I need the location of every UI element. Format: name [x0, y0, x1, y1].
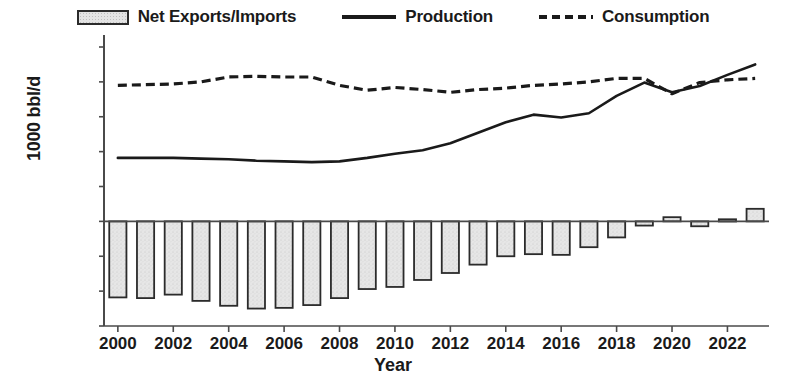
x-tick-label-2014: 2014	[476, 334, 536, 354]
solid-line-swatch-icon	[342, 15, 396, 19]
x-tick-label-2012: 2012	[420, 334, 480, 354]
bar-2001	[137, 221, 154, 298]
bar-2010	[386, 221, 403, 287]
bar-2004	[220, 221, 237, 305]
legend-item-net-exports-imports: Net Exports/Imports	[77, 7, 297, 27]
legend-item-production: Production	[342, 7, 493, 27]
bar-2014	[497, 221, 514, 256]
legend-label-net-exports-imports: Net Exports/Imports	[138, 7, 297, 27]
x-tick-label-2006: 2006	[254, 334, 314, 354]
y-axis-title: 1000 bbl/d	[24, 39, 45, 199]
bar-2023	[747, 209, 764, 222]
bar-2017	[580, 221, 597, 247]
x-axis-title: Year	[0, 355, 786, 376]
bar-series-net-exports-imports	[109, 209, 763, 309]
chart-svg	[104, 47, 769, 326]
legend-label-production: Production	[405, 7, 493, 27]
x-tick-label-2020: 2020	[642, 334, 702, 354]
x-tick-label-2004: 2004	[199, 334, 259, 354]
chart-legend: Net Exports/Imports Production Consumpti…	[0, 0, 786, 34]
x-tick-label-2010: 2010	[365, 334, 425, 354]
bar-swatch-icon	[77, 10, 129, 25]
line-series-consumption	[118, 76, 755, 93]
bar-2012	[442, 221, 459, 273]
x-tick-label-2022: 2022	[697, 334, 757, 354]
bar-2007	[303, 221, 320, 305]
line-series-production	[118, 64, 755, 162]
x-tick-label-2016: 2016	[531, 334, 591, 354]
x-tick-label-2002: 2002	[143, 334, 203, 354]
bar-2018	[608, 221, 625, 237]
chart-container: Net Exports/Imports Production Consumpti…	[0, 0, 786, 387]
bar-2013	[469, 221, 486, 264]
bar-2016	[553, 221, 570, 254]
bar-2002	[165, 221, 182, 294]
bar-2008	[331, 221, 348, 298]
dashed-line-swatch-icon	[539, 15, 593, 19]
bar-2000	[109, 221, 126, 297]
legend-label-consumption: Consumption	[602, 7, 709, 27]
x-tick-label-2018: 2018	[587, 334, 647, 354]
bar-2003	[192, 221, 209, 301]
x-tick-label-2008: 2008	[310, 334, 370, 354]
bar-2015	[525, 221, 542, 254]
bar-2005	[248, 221, 265, 308]
legend-item-consumption: Consumption	[539, 7, 709, 27]
bar-2011	[414, 221, 431, 280]
x-tick-label-2000: 2000	[88, 334, 148, 354]
plot-area: 2500020000150001000050000-5000-10000-150…	[104, 47, 769, 326]
bar-2009	[359, 221, 376, 289]
bar-2006	[276, 221, 293, 307]
